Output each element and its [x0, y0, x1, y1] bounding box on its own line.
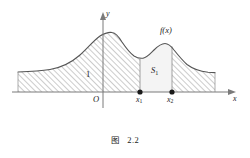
figure-caption: 图2.2: [0, 133, 250, 145]
marker-x1: [137, 89, 142, 94]
origin-label: O: [93, 95, 99, 104]
curve-function-label: f(x): [160, 26, 172, 35]
tick-label-x2: x2: [167, 96, 173, 105]
figure-caption-number: 2.2: [127, 135, 139, 145]
tick-label-x2-subscript: 2: [171, 98, 174, 104]
tick-label-x1: x1: [136, 96, 142, 105]
marker-x2: [169, 89, 174, 94]
tick-label-x1-subscript: 1: [140, 98, 143, 104]
figure-caption-prefix: 图: [111, 135, 121, 145]
figure-container: y x O f(x) 1 S1 x1 x2 图2.2: [0, 0, 250, 158]
region-s1-fill: [140, 28, 172, 94]
region-s1-label-subscript: 1: [155, 70, 158, 76]
region-s1-label: S1: [151, 66, 158, 76]
region-one-label: 1: [86, 70, 90, 79]
y-axis-label: y: [106, 10, 110, 18]
hatched-area-under-curve: [16, 28, 218, 94]
x-axis-label: x: [233, 95, 237, 103]
